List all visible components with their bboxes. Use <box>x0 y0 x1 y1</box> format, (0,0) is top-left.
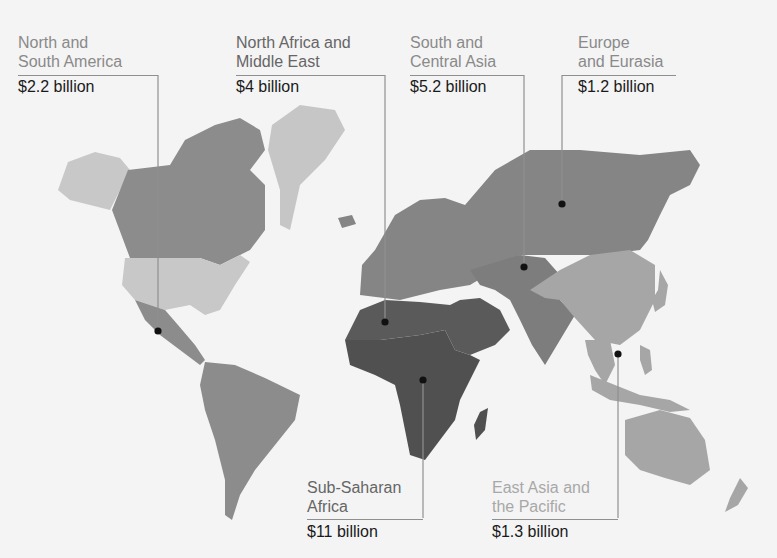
region-name: Africa <box>307 497 401 516</box>
label-south-central-asia: South and Central Asia $5.2 billion <box>410 33 496 96</box>
label-north-africa-middle-east: North Africa and Middle East $4 billion <box>236 33 351 96</box>
label-rule <box>307 519 423 520</box>
marker-americas <box>154 327 161 334</box>
marker-south-central-asia <box>520 263 527 270</box>
marker-east-asia <box>614 350 621 357</box>
region-name: Middle East <box>236 52 351 71</box>
region-name: the Pacific <box>492 497 590 516</box>
region-canada <box>112 118 265 265</box>
label-rule <box>18 75 158 76</box>
region-name: East Asia and <box>492 478 590 497</box>
region-value: $5.2 billion <box>410 77 496 96</box>
region-australia <box>625 410 710 485</box>
region-name: Central Asia <box>410 52 496 71</box>
marker-sub-saharan <box>419 376 426 383</box>
label-rule <box>236 75 385 76</box>
region-philippines <box>640 345 652 375</box>
region-value: $1.3 billion <box>492 522 590 541</box>
region-greenland <box>268 105 345 230</box>
marker-north-africa <box>381 318 388 325</box>
label-europe-eurasia: Europe and Eurasia $1.2 billion <box>578 33 663 96</box>
label-sub-saharan-africa: Sub-Saharan Africa $11 billion <box>307 478 401 541</box>
region-name: North and <box>18 33 122 52</box>
region-value: $4 billion <box>236 77 351 96</box>
marker-europe-eurasia <box>558 200 565 207</box>
region-value: $2.2 billion <box>18 77 122 96</box>
region-name: Europe <box>578 33 663 52</box>
region-value: $1.2 billion <box>578 77 663 96</box>
region-name: North Africa and <box>236 33 351 52</box>
region-value: $11 billion <box>307 522 401 541</box>
region-name: and Eurasia <box>578 52 663 71</box>
label-east-asia-pacific: East Asia and the Pacific $1.3 billion <box>492 478 590 541</box>
region-madagascar <box>474 408 488 440</box>
region-name: South and <box>410 33 496 52</box>
region-name: South America <box>18 52 122 71</box>
region-southeast-asia <box>585 340 615 385</box>
label-rule <box>562 75 676 76</box>
label-rule <box>410 75 524 76</box>
label-americas: North and South America $2.2 billion <box>18 33 122 96</box>
region-iceland <box>338 215 356 228</box>
label-rule <box>492 519 618 520</box>
region-mexico-central-america <box>135 300 205 365</box>
region-south-america <box>200 362 300 520</box>
region-new-zealand <box>725 478 748 512</box>
region-name: Sub-Saharan <box>307 478 401 497</box>
